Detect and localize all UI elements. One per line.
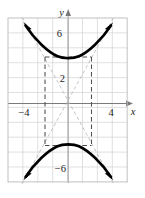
figure-background xyxy=(0,0,145,198)
y-tick-label-6: 6 xyxy=(57,28,62,39)
y-tick-label-2: 2 xyxy=(60,73,65,84)
y-tick-label-neg6: −6 xyxy=(55,163,66,174)
graph-canvas: 6 2 −6 −4 4 y x xyxy=(0,0,145,198)
hyperbola-graph-figure: 6 2 −6 −4 4 y x xyxy=(0,0,145,198)
x-axis-label: x xyxy=(130,106,136,117)
y-axis-label: y xyxy=(58,7,64,18)
x-tick-label-neg4: −4 xyxy=(18,107,30,118)
x-tick-label-4: 4 xyxy=(108,107,114,118)
